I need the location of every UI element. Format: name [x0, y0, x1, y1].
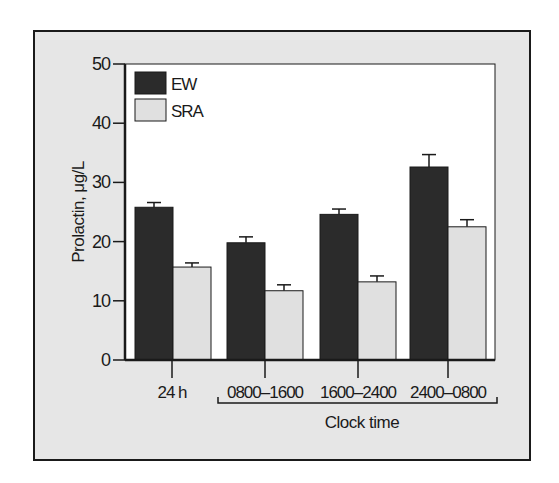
y-tick-label: 40 — [92, 113, 111, 133]
legend-swatch-sra — [135, 99, 166, 121]
y-tick-label: 50 — [92, 54, 111, 74]
bar-sra — [173, 267, 211, 360]
bar-ew — [135, 207, 173, 360]
bar-chart: 01020304050 24 h0800–16001600–24002400–0… — [0, 0, 559, 483]
x-tick-label: 24 h — [157, 383, 187, 402]
y-axis: 01020304050 — [92, 54, 125, 370]
bar-ew — [410, 167, 448, 360]
legend-label-ew: EW — [171, 75, 197, 94]
x-tick-label: 2400–0800 — [410, 383, 487, 402]
x-axis-title: Clock time — [325, 413, 399, 432]
legend-label-sra: SRA — [171, 102, 205, 121]
x-tick-label: 0800–1600 — [227, 383, 304, 402]
bar-sra — [448, 227, 486, 360]
bar-ew — [227, 243, 265, 360]
bar-sra — [265, 291, 303, 360]
y-axis-title: Prolactin, μg/L — [69, 161, 88, 263]
x-axis: 24 h0800–16001600–24002400–0800 — [125, 360, 497, 403]
bar-sra — [358, 282, 396, 360]
y-tick-label: 0 — [101, 350, 111, 370]
bar-ew — [320, 214, 358, 360]
y-tick-label: 10 — [92, 291, 111, 311]
y-tick-label: 20 — [92, 232, 111, 252]
y-tick-label: 30 — [92, 172, 111, 192]
x-tick-label: 1600–2400 — [320, 383, 397, 402]
legend-swatch-ew — [135, 72, 166, 94]
